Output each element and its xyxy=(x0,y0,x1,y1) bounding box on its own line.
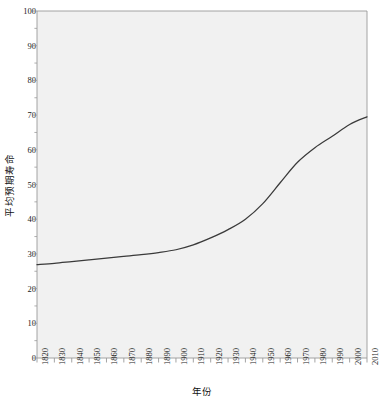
x-axis-tick-labels: 1820183018401850186018701880189019001910… xyxy=(0,0,381,402)
x-axis-tick-label: 1950 xyxy=(267,348,276,365)
x-axis-tick-label: 1890 xyxy=(163,348,172,365)
x-axis-tick-label: 1870 xyxy=(128,348,137,365)
x-axis-tick-label: 1860 xyxy=(110,348,119,365)
x-axis-tick-label: 1840 xyxy=(76,348,85,365)
x-axis-tick-label: 1900 xyxy=(180,348,189,365)
x-axis-tick-label: 1970 xyxy=(302,348,311,365)
x-axis-tick-label: 1920 xyxy=(215,348,224,365)
x-axis-tick-label: 2010 xyxy=(371,348,380,365)
x-axis-tick-label: 1910 xyxy=(197,348,206,365)
x-axis-tick-label: 1880 xyxy=(145,348,154,365)
x-axis-tick-label: 2000 xyxy=(354,348,363,365)
x-axis-tick-label: 1990 xyxy=(336,348,345,365)
x-axis-tick-label: 1960 xyxy=(284,348,293,365)
x-axis-tick-label: 1830 xyxy=(58,348,67,365)
x-axis-tick-label: 1940 xyxy=(249,348,258,365)
x-axis-tick-label: 1980 xyxy=(319,348,328,365)
chart-figure: 平均预期寿命 0102030405060708090100 1820183018… xyxy=(0,0,381,402)
x-axis-title: 年份 xyxy=(37,384,367,398)
x-axis-tick-label: 1820 xyxy=(41,348,50,365)
x-axis-tick-label: 1930 xyxy=(232,348,241,365)
x-axis-tick-label: 1850 xyxy=(93,348,102,365)
